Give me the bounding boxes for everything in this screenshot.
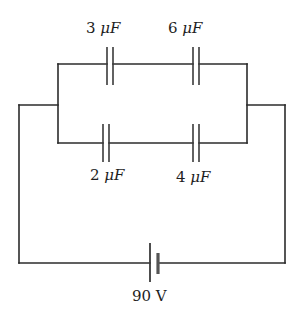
battery-icon	[150, 243, 158, 282]
label-value: 2	[90, 166, 100, 184]
capacitor-2uF	[103, 124, 109, 162]
top-branch	[58, 47, 247, 85]
label-value: 4	[176, 168, 186, 186]
label-6uF: 6 μF	[168, 21, 202, 36]
label-unit: μF	[104, 166, 124, 184]
label-unit: μF	[190, 168, 210, 186]
label-value: 6	[168, 19, 178, 37]
label-battery-voltage: 90 V	[132, 289, 167, 304]
circuit-diagram	[0, 0, 298, 316]
battery-voltage-text: 90 V	[132, 287, 167, 305]
label-unit: μF	[182, 19, 202, 37]
label-2uF: 2 μF	[90, 168, 124, 183]
capacitor-3uF	[107, 47, 113, 85]
capacitor-4uF	[193, 124, 199, 162]
outer-loop	[19, 105, 285, 263]
bottom-branch	[58, 124, 247, 162]
label-4uF: 4 μF	[176, 170, 210, 185]
label-value: 3	[86, 19, 96, 37]
label-3uF: 3 μF	[86, 21, 120, 36]
label-unit: μF	[100, 19, 120, 37]
capacitor-6uF	[193, 47, 199, 85]
